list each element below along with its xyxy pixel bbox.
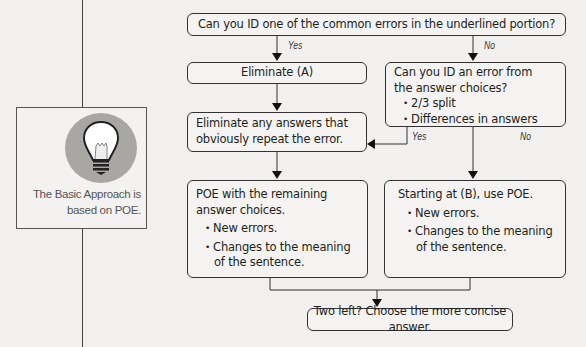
eliminate-a-box: Eliminate (A) <box>187 62 367 84</box>
bullet-item: Changes to the meaningof the sentence. <box>398 224 557 255</box>
yes-label: Yes <box>288 40 302 51</box>
bullet-item: New errors. <box>196 221 359 237</box>
bullet-item: New errors. <box>398 206 557 222</box>
bullet-item: Changes to the meaningof the sentence. <box>196 240 359 271</box>
start-at-b-box: Starting at (B), use POE. New errors. Ch… <box>384 180 566 278</box>
choices-yes-label: Yes <box>412 131 426 142</box>
no-label: No <box>484 40 495 51</box>
bullet-item: 2/3 split <box>394 96 557 112</box>
flowchart-connectors <box>0 0 586 347</box>
start-question-box: Can you ID one of the common errors in t… <box>187 13 566 36</box>
bullet-item: Differences in answers <box>394 112 557 128</box>
choices-no-label: No <box>520 131 531 142</box>
final-box: Two left? Choose the more concise answer… <box>307 308 513 331</box>
answer-choices-question-box: Can you ID an error from the answer choi… <box>385 62 566 127</box>
eliminate-repeats-box: Eliminate any answers that obviously rep… <box>187 112 367 152</box>
poe-remaining-box: POE with the remaining answer choices. N… <box>187 180 368 278</box>
